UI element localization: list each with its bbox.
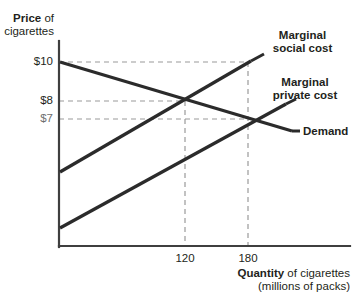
msc-label-leader xyxy=(251,54,264,61)
x-axis-title-bold: Quantity xyxy=(238,267,285,279)
msc-label-line1: Marginal xyxy=(255,29,350,42)
y-axis-title: Price of cigarettes xyxy=(0,12,54,38)
mpc-label-line1: Marginal xyxy=(258,76,352,89)
marginal-social-cost-curve xyxy=(60,61,251,172)
x-axis-title: Quantity of cigarettes (millions of pack… xyxy=(190,267,350,293)
x-tick-label-120: 120 xyxy=(160,252,210,265)
axes-lines xyxy=(59,41,350,247)
marginal-social-cost-label: Marginal social cost xyxy=(255,29,350,55)
y-axis-title-bold: Price xyxy=(13,12,41,24)
x-axis-title-rest: of cigarettes xyxy=(287,267,350,279)
y-axis-title-line1: Price of xyxy=(0,12,54,25)
marginal-private-cost-label: Marginal private cost xyxy=(258,76,352,102)
y-tick-label-10: $10 xyxy=(8,55,53,68)
x-axis-title-line2: (millions of packs) xyxy=(190,280,350,293)
mpc-label-line2: private cost xyxy=(258,89,352,102)
y-axis-title-rest: of xyxy=(44,12,54,24)
marginal-private-cost-curve xyxy=(60,104,286,228)
demand-label: Demand xyxy=(303,125,353,138)
economics-externality-chart: Price of cigarettes $10 $8 $7 120 180 Ma… xyxy=(0,0,354,300)
y-tick-label-8: $8 xyxy=(8,94,53,107)
msc-label-line2: social cost xyxy=(255,42,350,55)
x-tick-label-180: 180 xyxy=(223,252,273,265)
y-axis-title-line2: cigarettes xyxy=(0,25,54,38)
y-tick-label-7: $7 xyxy=(8,112,53,125)
x-axis-title-line1: Quantity of cigarettes xyxy=(190,267,350,280)
